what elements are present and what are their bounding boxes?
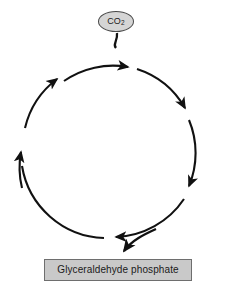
co2-node-subscript: 2 [121,20,125,27]
cycle-segment-left [20,152,22,188]
cycle-segment-top [64,66,128,81]
co2-input-arrow [115,33,118,48]
cycle-segment-bottom-left [22,166,104,238]
cycle-segment-upper-left [25,79,57,128]
cycle-arrows-svg [0,0,230,289]
glyceraldehyde-phosphate-node: Glyceraldehyde phosphate [44,259,192,281]
cycle-segment-right [189,120,196,186]
cycle-segment-upper-right [137,69,185,108]
glyceraldehyde-phosphate-label: Glyceraldehyde phosphate [57,265,178,275]
cycle-diagram: CO2 Glyceraldehyde phosphate [0,0,230,289]
co2-node-label: CO [107,17,121,26]
co2-node: CO2 [98,11,134,32]
